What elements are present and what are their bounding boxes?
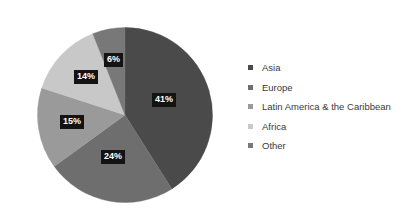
legend-label-europe: Europe xyxy=(262,83,293,93)
legend-label-other: Other xyxy=(262,141,286,151)
legend-label-africa: Africa xyxy=(262,122,286,132)
slice-label-latin-america-and-the-caribbean: 15% xyxy=(60,115,84,129)
legend-item-other: Other xyxy=(248,136,400,156)
pie-chart-figure: 41% 24% 15% 14% 6% Asia Europe Latin Ame… xyxy=(0,0,405,221)
legend-item-latin-america-and-the-caribbean: Latin America & the Caribbean xyxy=(248,97,400,117)
slice-label-europe: 24% xyxy=(101,150,125,164)
legend-swatch-icon-other xyxy=(248,143,253,148)
legend-swatch-icon-latin-america-and-the-caribbean xyxy=(248,104,253,109)
legend-item-europe: Europe xyxy=(248,78,400,98)
legend-swatch-icon-europe xyxy=(248,85,253,90)
legend-label-asia: Asia xyxy=(262,63,280,73)
legend-swatch-icon-africa xyxy=(248,124,253,129)
legend-item-africa: Africa xyxy=(248,117,400,137)
slice-label-asia: 41% xyxy=(152,93,176,107)
legend-label-latin-america-and-the-caribbean: Latin America & the Caribbean xyxy=(262,102,391,112)
legend-item-asia: Asia xyxy=(248,58,400,78)
legend-swatch-icon-asia xyxy=(248,65,253,70)
chart-legend: Asia Europe Latin America & the Caribbea… xyxy=(248,58,400,156)
slice-label-africa: 14% xyxy=(74,70,98,84)
slice-label-other: 6% xyxy=(104,53,123,67)
